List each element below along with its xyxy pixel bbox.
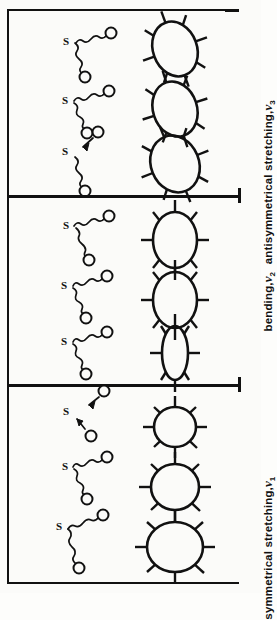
- nu-subscript-bending: 2: [268, 272, 277, 277]
- caption-text-bending: bending,: [262, 282, 274, 331]
- shape-antisym-1: [129, 0, 220, 98]
- caption-symmetrical-stretching: symmetrical stretching,ν1: [260, 477, 277, 620]
- panel-bending-graphics: S S S: [7, 198, 239, 388]
- shape-sym-1: [143, 396, 207, 458]
- svg-text:S: S: [62, 460, 68, 472]
- molecule-sym-1: S: [63, 386, 110, 442]
- molecule-antisym-2: S: [62, 86, 115, 139]
- caption-bending: bending,ν2: [260, 272, 277, 332]
- panel-bending: S S S: [7, 198, 239, 388]
- molecule-antisym-1: S: [63, 28, 117, 83]
- caption-text-sym: symmetrical stretching,: [262, 487, 274, 620]
- molecule-bending-3: S: [61, 327, 113, 380]
- nu-subscript-antisym: 3: [268, 100, 277, 105]
- nu-symbol-antisym: ν: [260, 105, 275, 111]
- nu-subscript-sym: 1: [268, 477, 277, 482]
- svg-text:S: S: [62, 94, 68, 106]
- nu-symbol-sym: ν: [260, 481, 275, 487]
- panel-sym-graphics: S S S: [7, 387, 239, 584]
- svg-text:S: S: [61, 279, 67, 291]
- molecule-sym-3: S: [56, 510, 109, 574]
- caption-antisymmetrical-stretching: antisymmetrical stretching,ν3: [260, 100, 277, 264]
- panel-antisymmetrical-stretching: S S S: [7, 9, 239, 199]
- panel-antisym-graphics: S S S: [7, 9, 239, 199]
- panel-symmetrical-stretching: S S S: [7, 387, 239, 584]
- caption-text-antisym: antisymmetrical stretching,: [262, 111, 274, 265]
- svg-text:S: S: [56, 520, 62, 532]
- shape-sym-3: [135, 510, 215, 584]
- shape-bending-3: [150, 314, 200, 392]
- svg-text:S: S: [62, 145, 68, 157]
- svg-text:S: S: [63, 219, 69, 231]
- svg-text:S: S: [63, 35, 69, 47]
- svg-text:S: S: [61, 335, 67, 347]
- molecule-bending-1: S: [63, 211, 115, 266]
- shape-bending-2: [141, 260, 209, 340]
- svg-text:S: S: [63, 405, 69, 417]
- molecule-sym-2: S: [62, 452, 113, 505]
- molecule-bending-2: S: [61, 271, 113, 324]
- nu-symbol-bending: ν: [260, 276, 275, 282]
